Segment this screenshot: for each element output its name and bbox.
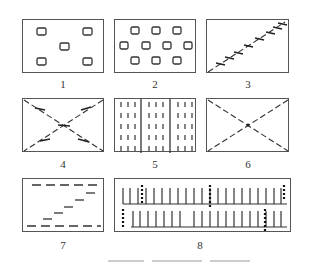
panel-6: [206, 98, 289, 152]
panel-1-label: 1: [48, 78, 78, 90]
panel-2: [114, 19, 196, 73]
panel-1: [22, 19, 104, 73]
panel-8-label: 8: [185, 239, 215, 251]
panel-5-graphic: [115, 99, 197, 153]
panel-1-graphic: [23, 20, 105, 74]
panel-7-graphic: [23, 179, 105, 233]
panel-3-label: 3: [233, 78, 263, 90]
panel-5: [114, 98, 196, 152]
panel-4: [22, 98, 104, 152]
panel-6-label: 6: [233, 158, 263, 170]
panel-3-graphic: [207, 20, 290, 74]
panel-8-graphic: [115, 179, 292, 233]
figure-caption: [60, 258, 280, 264]
panel-3: [206, 19, 289, 73]
panel-8: [114, 178, 291, 232]
panel-6-graphic: [207, 99, 290, 153]
panel-7-label: 7: [48, 239, 78, 251]
panel-4-graphic: [23, 99, 105, 153]
panel-5-label: 5: [140, 158, 170, 170]
panel-2-label: 2: [140, 78, 170, 90]
panel-2-graphic: [115, 20, 197, 74]
panel-4-label: 4: [48, 158, 78, 170]
panel-7: [22, 178, 104, 232]
